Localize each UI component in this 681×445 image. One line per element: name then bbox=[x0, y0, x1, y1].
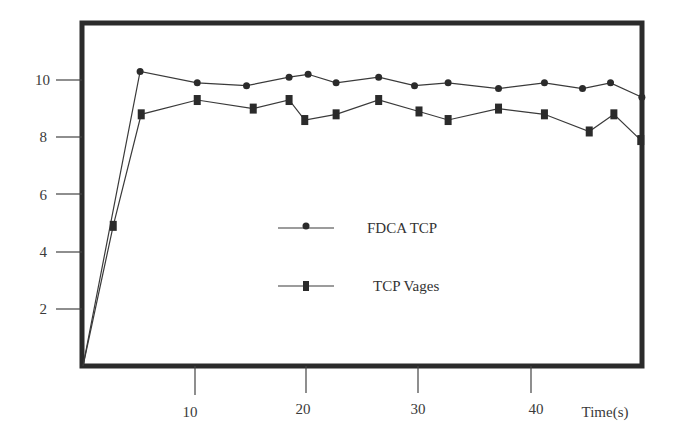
square-marker-icon bbox=[303, 281, 309, 291]
x-axis-title: Time(s) bbox=[582, 404, 629, 421]
legend-label-tcp-vages: TCP Vages bbox=[373, 278, 439, 294]
circle-marker-icon bbox=[194, 79, 201, 86]
square-marker-icon bbox=[495, 104, 502, 114]
series-layer bbox=[83, 68, 645, 366]
legend-item-tcp-vages: TCP Vages bbox=[278, 278, 439, 294]
y-axis: 10 8 6 4 2 bbox=[35, 72, 82, 317]
series-line bbox=[83, 100, 641, 366]
square-marker-icon bbox=[375, 95, 382, 105]
circle-marker-icon bbox=[411, 82, 418, 89]
y-tick-label-2: 2 bbox=[40, 301, 48, 317]
circle-marker-icon bbox=[541, 79, 548, 86]
square-marker-icon bbox=[110, 221, 117, 231]
circle-marker-icon bbox=[243, 82, 250, 89]
circle-marker-icon bbox=[333, 79, 340, 86]
x-tick-label-30: 30 bbox=[411, 401, 426, 417]
series-line bbox=[83, 71, 642, 366]
legend-label-fdca-tcp: FDCA TCP bbox=[367, 220, 437, 236]
square-marker-icon bbox=[194, 95, 201, 105]
circle-marker-icon bbox=[137, 68, 144, 75]
y-tick-label-4: 4 bbox=[40, 244, 48, 260]
circle-marker-icon bbox=[305, 71, 312, 78]
x-tick-label-10: 10 bbox=[183, 404, 198, 420]
x-axis: 10 20 30 40 Time(s) bbox=[183, 366, 629, 421]
square-marker-icon bbox=[445, 115, 452, 125]
square-marker-icon bbox=[586, 126, 593, 136]
plot-frame bbox=[82, 23, 642, 366]
circle-marker-icon bbox=[286, 74, 293, 81]
circle-marker-icon bbox=[375, 74, 382, 81]
square-marker-icon bbox=[333, 109, 340, 119]
square-marker-icon bbox=[610, 109, 617, 119]
y-tick-label-10: 10 bbox=[35, 72, 50, 88]
legend: FDCA TCP TCP Vages bbox=[278, 220, 439, 294]
square-marker-icon bbox=[286, 95, 293, 105]
square-marker-icon bbox=[138, 109, 145, 119]
square-marker-icon bbox=[637, 135, 644, 145]
square-marker-icon bbox=[416, 106, 423, 116]
x-tick-label-20: 20 bbox=[296, 401, 311, 417]
square-marker-icon bbox=[541, 109, 548, 119]
line-chart: 10 8 6 4 2 10 20 30 40 Time(s) FDCA TCP … bbox=[0, 0, 681, 445]
circle-marker-icon bbox=[445, 79, 452, 86]
square-marker-icon bbox=[250, 104, 257, 114]
circle-marker-icon bbox=[638, 94, 645, 101]
circle-marker-icon bbox=[495, 85, 502, 92]
series-tcp-vages bbox=[83, 95, 644, 366]
circle-marker-icon bbox=[303, 223, 310, 230]
circle-marker-icon bbox=[579, 85, 586, 92]
series-fdca-tcp bbox=[83, 68, 645, 366]
y-tick-label-8: 8 bbox=[40, 129, 48, 145]
square-marker-icon bbox=[301, 115, 308, 125]
legend-item-fdca-tcp: FDCA TCP bbox=[278, 220, 437, 236]
x-tick-label-40: 40 bbox=[529, 401, 544, 417]
circle-marker-icon bbox=[607, 79, 614, 86]
y-tick-label-6: 6 bbox=[40, 187, 48, 203]
